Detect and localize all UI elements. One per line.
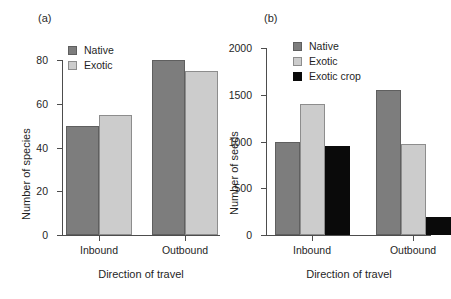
bar-native-inbound	[275, 142, 300, 236]
panel-b-ytick-1000: 1000	[261, 142, 266, 143]
legend-label-exotic: Exotic	[84, 60, 113, 71]
bar-exotic-outbound	[185, 71, 218, 235]
panel-b-ytick-label-2000: 2000	[229, 42, 252, 54]
panel-b-xtick-inbound	[312, 235, 313, 241]
legend-label-native: Native	[84, 45, 114, 56]
panel-a-ytick-80: 80	[57, 60, 62, 61]
legend-swatch-native-icon	[293, 42, 302, 51]
panel-a-ytick-0: 0	[57, 235, 62, 236]
legend-item-exotic: Exotic	[293, 55, 361, 68]
panel-b-ytick-0: 0	[261, 235, 266, 236]
legend-label-exotic-crop: Exotic crop	[309, 71, 361, 82]
panel-a-ytick-label-80: 80	[36, 54, 48, 66]
legend-swatch-native-icon	[68, 46, 77, 55]
bar-exotic-crop-inbound	[325, 146, 350, 235]
panel-a-legend: Native Exotic	[68, 44, 114, 72]
legend-label-exotic: Exotic	[309, 56, 338, 67]
panel-b-ytick-2000: 2000	[261, 48, 266, 49]
panel-a-y-axis	[62, 60, 63, 235]
panel-b-xtick-outbound	[413, 235, 414, 241]
legend-item-native: Native	[293, 40, 361, 53]
panel-b-x-axis-label: Direction of travel	[306, 268, 392, 280]
bar-exotic-inbound	[99, 115, 132, 235]
panel-a-xtick-inbound	[99, 235, 100, 241]
panel-b-y-axis	[266, 48, 267, 235]
panel-b-ytick-label-0: 0	[246, 229, 252, 241]
panel-b-ytick-label-1000: 1000	[229, 136, 252, 148]
panel-a-xtick-label-outbound: Outbound	[162, 244, 208, 256]
panel-a-label: (a)	[38, 12, 51, 24]
panel-a: (a) Number of species Direction of trave…	[0, 0, 220, 299]
panel-a-x-axis	[62, 235, 220, 236]
bar-native-outbound	[376, 90, 401, 235]
panel-b-ytick-label-500: 500	[234, 182, 252, 194]
legend-swatch-exotic-icon	[293, 57, 302, 66]
legend-label-native: Native	[309, 41, 339, 52]
panel-a-x-axis-label: Direction of travel	[98, 268, 184, 280]
panel-a-ytick-40: 40	[57, 148, 62, 149]
panel-b: (b) Number of seeds Direction of travel …	[218, 0, 437, 299]
panel-b-ytick-500: 500	[261, 188, 266, 189]
panel-a-ytick-label-40: 40	[36, 142, 48, 154]
panel-a-ytick-label-20: 20	[36, 185, 48, 197]
bar-exotic-outbound	[401, 144, 426, 235]
panel-a-xtick-outbound	[185, 235, 186, 241]
panel-a-y-axis-label: Number of species	[20, 128, 32, 220]
panel-a-ytick-60: 60	[57, 104, 62, 105]
panel-a-ytick-label-60: 60	[36, 98, 48, 110]
panel-b-xtick-label-outbound: Outbound	[390, 244, 436, 256]
bar-exotic-inbound	[300, 104, 325, 235]
panel-b-x-axis	[266, 235, 431, 236]
panel-b-xtick-label-inbound: Inbound	[293, 244, 331, 256]
legend-swatch-exotic-crop-icon	[293, 72, 302, 81]
panel-a-plot-area: 0 20 40 60 80 Inbound Outbou	[62, 60, 220, 235]
legend-item-native: Native	[68, 44, 114, 57]
legend-item-exotic-crop: Exotic crop	[293, 70, 361, 83]
panel-b-label: (b)	[264, 12, 277, 24]
panel-a-ytick-20: 20	[57, 191, 62, 192]
bar-exotic-crop-outbound	[426, 217, 451, 235]
panel-a-xtick-label-inbound: Inbound	[80, 244, 118, 256]
legend-swatch-exotic-icon	[68, 61, 77, 70]
panel-b-legend: Native Exotic Exotic crop	[293, 40, 361, 83]
bar-native-outbound	[152, 60, 185, 235]
panel-b-ytick-1500: 1500	[261, 95, 266, 96]
bar-native-inbound	[66, 126, 99, 235]
panel-b-ytick-label-1500: 1500	[229, 89, 252, 101]
legend-item-exotic: Exotic	[68, 59, 114, 72]
panel-a-ytick-label-0: 0	[42, 229, 48, 241]
